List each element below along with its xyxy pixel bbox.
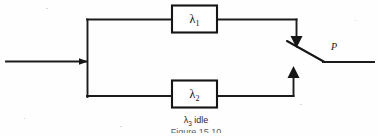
block-lambda1[interactable]: λ1 [172,6,217,33]
input-line [6,58,88,65]
switch-p-label: P [330,41,337,52]
figure-number-label: Figure 15.10 [171,127,222,136]
reliability-block-diagram: λ1 λ2 P λ3 idle Figure 15.10 [0,0,378,136]
bottom-feed-arrow-icon [288,66,300,78]
figure-number-cropped: Figure 15.10 [171,127,222,136]
caption-lambda3-idle: λ3 idle [184,115,209,127]
block-lambda2[interactable]: λ2 [172,81,217,108]
figure-container: λ1 λ2 P λ3 idle Figure 15.10 [0,0,378,136]
